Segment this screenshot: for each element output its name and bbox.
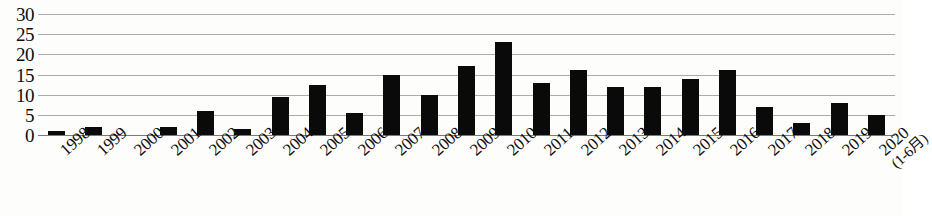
bar-2010 [495, 42, 512, 135]
y-axis: 302520151050 [0, 0, 34, 145]
y-tick-label-25: 25 [0, 25, 34, 44]
bar-series [38, 0, 895, 140]
y-tick-label-15: 15 [0, 65, 34, 84]
x-axis: 1998199920002001200220032004200520062007… [38, 140, 895, 216]
bar-1998 [48, 131, 65, 135]
x-tick-sublabel-2020: (1-6月) [888, 130, 931, 172]
y-tick-label-10: 10 [0, 85, 34, 104]
bar-2004 [272, 97, 289, 135]
y-tick-label-20: 20 [0, 45, 34, 64]
bar-2016 [719, 70, 736, 135]
bar-2005 [309, 85, 326, 135]
bar-2013 [607, 87, 624, 135]
bar-2012 [570, 70, 587, 135]
bar-2009 [458, 66, 475, 135]
bar-2011 [533, 83, 550, 135]
bar-2014 [644, 87, 661, 135]
y-tick-label-30: 30 [0, 5, 34, 24]
plot-area [38, 0, 895, 140]
bar-2019 [831, 103, 848, 135]
bar-2017 [756, 107, 773, 135]
bar-2007 [383, 75, 400, 136]
y-tick-label-0: 0 [0, 126, 34, 145]
bar-2008 [421, 95, 438, 135]
y-tick-label-5: 5 [0, 105, 34, 124]
bar-2015 [682, 79, 699, 135]
